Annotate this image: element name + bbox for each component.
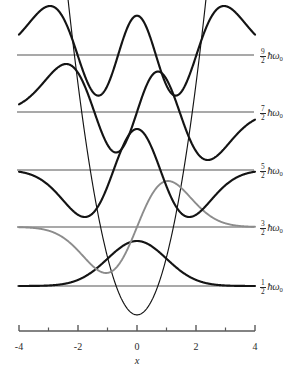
- fraction-denominator: 2: [260, 288, 266, 296]
- omega-subscript: 0: [279, 112, 282, 119]
- plot-canvas: [0, 0, 294, 373]
- fraction-7-2: 7 2: [260, 105, 266, 122]
- fraction-numerator: 3: [260, 220, 266, 228]
- xtick-label-minus2: -2: [74, 341, 82, 352]
- wavefunction-n4: [19, 6, 255, 96]
- level-label-n1: 3 2 ħω0: [260, 220, 283, 237]
- fraction-numerator: 5: [260, 163, 266, 171]
- omega-subscript: 0: [279, 55, 282, 62]
- fraction-5-2: 5 2: [260, 163, 266, 180]
- xtick-label-minus4: -4: [15, 341, 23, 352]
- omega-subscript: 0: [279, 286, 282, 293]
- xtick-label-zero: 0: [135, 341, 140, 352]
- fraction-denominator: 2: [260, 172, 266, 180]
- fraction-3-2: 3 2: [260, 220, 266, 237]
- level-label-n4: 9 2 ħω0: [260, 48, 283, 65]
- hbar-omega-symbol: ħω0: [267, 108, 282, 120]
- fraction-1-2: 1 2: [260, 279, 266, 296]
- fraction-numerator: 9: [260, 48, 266, 56]
- hbar-omega-symbol: ħω0: [267, 282, 282, 294]
- fraction-denominator: 2: [260, 57, 266, 65]
- fraction-denominator: 2: [260, 114, 266, 122]
- hbar-omega-symbol: ħω0: [267, 51, 282, 63]
- fraction-denominator: 2: [260, 229, 266, 237]
- fraction-numerator: 1: [260, 279, 266, 287]
- fraction-numerator: 7: [260, 105, 266, 113]
- omega-subscript: 0: [279, 227, 282, 234]
- fraction-9-2: 9 2: [260, 48, 266, 65]
- wavefunction-n0: [19, 241, 255, 286]
- potential-parabola: [67, 0, 206, 315]
- level-label-n0: 1 2 ħω0: [260, 279, 283, 296]
- x-axis-label: x: [135, 355, 140, 366]
- harmonic-oscillator-figure: 9 2 ħω0 7 2 ħω0 5 2 ħω0 3 2 ħω0 1: [0, 0, 294, 373]
- omega-subscript: 0: [279, 170, 282, 177]
- level-label-n3: 7 2 ħω0: [260, 105, 283, 122]
- level-label-n2: 5 2 ħω0: [260, 163, 283, 180]
- xtick-label-4: 4: [253, 341, 258, 352]
- wavefunction-n2: [19, 129, 255, 217]
- hbar-omega-symbol: ħω0: [267, 166, 282, 178]
- xtick-label-2: 2: [194, 341, 199, 352]
- hbar-omega-symbol: ħω0: [267, 223, 282, 235]
